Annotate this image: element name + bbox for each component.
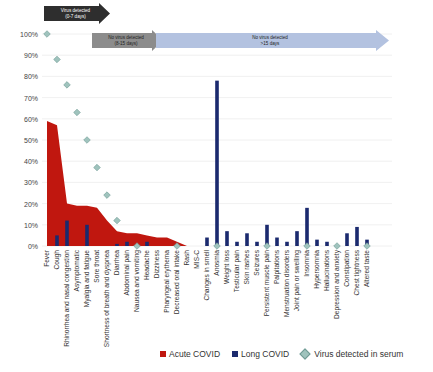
long-covid-bar: [245, 233, 249, 246]
virus-marker: [44, 31, 51, 38]
phase-sublabel: >15 days: [261, 41, 280, 46]
long-covid-bar: [315, 240, 319, 246]
diamond-icon: [300, 348, 311, 359]
legend-item-acute: Acute COVID: [160, 349, 220, 359]
y-tick-label: 40%: [24, 158, 38, 165]
virus-marker: [94, 164, 101, 171]
phase-sublabel: (0-7 days): [65, 14, 86, 19]
legend-label-acute: Acute COVID: [169, 349, 220, 359]
long-covid-bar: [255, 242, 259, 246]
x-tick-label: Depression and anxiety: [333, 249, 341, 319]
x-tick-label: Palpitations: [273, 249, 281, 284]
x-tick-label: Sore throat: [93, 250, 100, 283]
chart-root: 0%10%20%30%40%50%60%70%80%90%100% Virus …: [0, 0, 433, 372]
long-covid-bar: [295, 231, 299, 246]
long-covid-bar: [85, 225, 89, 246]
x-tick-label: Rash: [183, 250, 190, 266]
x-tick-label: Chest tightness: [353, 249, 361, 295]
x-tick-label: Diarrhea: [113, 250, 120, 276]
phase-label: No virus detected: [108, 35, 144, 40]
y-tick-label: 10%: [24, 222, 38, 229]
long-covid-bar: [345, 233, 349, 246]
y-tick-label: 70%: [24, 95, 38, 102]
legend-label-long: Long COVID: [241, 349, 289, 359]
x-tick-label: Skin rashes: [243, 249, 250, 284]
long-covid-bar: [235, 242, 239, 246]
acute-swatch-icon: [160, 351, 166, 357]
virus-marker: [104, 192, 111, 199]
long-covid-bar: [355, 227, 359, 246]
x-tick-label: Hypersomnia: [313, 250, 321, 289]
y-tick-label: 30%: [24, 179, 38, 186]
x-tick-label: Menstruation disorders: [283, 249, 290, 317]
x-tick-label: Altered taste: [363, 250, 370, 287]
x-tick-label: Nausea and vomiting: [133, 250, 141, 312]
long-covid-bar: [205, 238, 209, 246]
virus-marker: [264, 243, 271, 250]
long-covid-bar: [115, 244, 119, 246]
legend-item-virus: Virus detected in serum: [301, 349, 403, 359]
long-covid-bar: [145, 242, 149, 246]
x-tick-label: Anosmia: [213, 250, 220, 276]
x-tick-label: Myalgia and fatigue: [83, 250, 91, 308]
x-tick-label: Rhinorrhea and nasal congestion: [63, 250, 71, 347]
x-axis-labels: FeverCoughRhinorrhea and nasal congestio…: [43, 249, 370, 347]
y-tick-label: 50%: [24, 137, 38, 144]
phase-label: Virus detected: [61, 8, 91, 13]
long-covid-bar: [55, 235, 59, 246]
x-tick-label: Fever: [43, 249, 50, 267]
x-tick-label: Joint pain or swelling: [293, 250, 301, 312]
x-tick-label: Asymptomatic: [73, 249, 81, 291]
phase-sublabel: (8-15 days): [114, 41, 138, 46]
virus-marker: [114, 217, 121, 224]
y-tick-label: 20%: [24, 201, 38, 208]
x-tick-label: Dizziness: [153, 249, 160, 278]
y-tick-label: 100%: [20, 31, 38, 38]
x-tick-label: Constipation: [343, 250, 351, 287]
virus-marker: [84, 137, 91, 144]
virus-marker: [364, 243, 371, 250]
x-tick-label: Headache: [143, 250, 150, 280]
x-tick-label: Insomnia: [303, 250, 310, 277]
y-tick-label: 60%: [24, 116, 38, 123]
phase-arrows: Virus detected(0-7 days)No virus detecte…: [44, 3, 389, 51]
x-tick-label: Shortness of breath and dyspnea: [103, 250, 111, 347]
virus-marker: [74, 109, 81, 116]
long-covid-bar: [65, 221, 69, 246]
x-tick-label: MIS-C: [193, 250, 200, 269]
long-covid-bar: [275, 238, 279, 246]
x-tick-label: Persistent muscle pain: [263, 250, 271, 317]
virus-marker: [214, 243, 221, 250]
x-tick-label: Weight loss: [223, 249, 231, 284]
y-tick-label: 90%: [24, 52, 38, 59]
virus-marker: [54, 56, 61, 63]
long-covid-bar: [285, 242, 289, 246]
legend: Acute COVID Long COVID Virus detected in…: [160, 349, 403, 359]
chart-plot: 0%10%20%30%40%50%60%70%80%90%100% Virus …: [0, 0, 433, 372]
virus-marker: [64, 82, 71, 89]
x-tick-label: Testicular pain: [233, 250, 241, 292]
x-tick-label: Abdominal pain: [123, 250, 131, 296]
y-axis-ticks: 0%10%20%30%40%50%60%70%80%90%100%: [20, 31, 38, 250]
virus-marker: [304, 243, 311, 250]
long-covid-bar: [305, 208, 309, 246]
virus-marker: [334, 243, 341, 250]
long-covid-bar: [125, 242, 129, 246]
long-covid-bar: [225, 231, 229, 246]
y-tick-label: 80%: [24, 73, 38, 80]
long-swatch-icon: [232, 351, 238, 357]
long-covid-bar: [325, 242, 329, 246]
long-covid-bar: [215, 81, 219, 246]
y-tick-label: 0%: [28, 243, 38, 250]
x-tick-label: Changes in smell: [203, 249, 211, 300]
x-tick-label: Pharyngeal erythema: [163, 250, 171, 313]
legend-label-virus: Virus detected in serum: [314, 349, 403, 359]
legend-item-long: Long COVID: [232, 349, 289, 359]
x-tick-label: Hallucinations: [323, 249, 330, 291]
phase-label: No virus detected: [252, 35, 288, 40]
x-tick-label: Cough: [53, 250, 61, 270]
x-tick-label: Decreased oral intake: [173, 250, 180, 314]
x-tick-label: Seizures: [253, 249, 260, 275]
